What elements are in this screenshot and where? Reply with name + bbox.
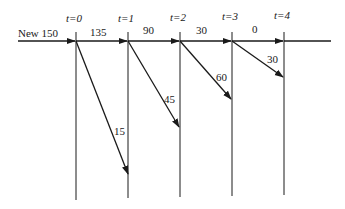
exit-arrow-0: [76, 41, 128, 174]
flow-label-1-2: 90: [143, 24, 155, 36]
time-label-3: t=3: [222, 10, 238, 22]
time-label-0: t=0: [66, 12, 82, 24]
flow-diagram: New 150 t=0 t=1 t=2 t=3 t=4 135 90 30 0 …: [0, 0, 345, 209]
exit-label-3: 30: [267, 53, 279, 65]
time-label-4: t=4: [274, 9, 290, 21]
exit-label-2: 60: [216, 71, 228, 83]
flow-label-2-3: 30: [196, 24, 208, 36]
exit-arrow-1: [128, 41, 179, 127]
input-label: New 150: [18, 27, 59, 39]
flow-label-0-1: 135: [90, 26, 107, 38]
exit-arrow-2: [180, 41, 231, 99]
flow-label-3-4: 0: [252, 23, 258, 35]
exit-label-1: 45: [164, 93, 176, 105]
time-label-2: t=2: [170, 11, 186, 23]
exit-label-0: 15: [114, 125, 126, 137]
time-lines: [76, 32, 284, 200]
time-label-1: t=1: [118, 12, 134, 24]
